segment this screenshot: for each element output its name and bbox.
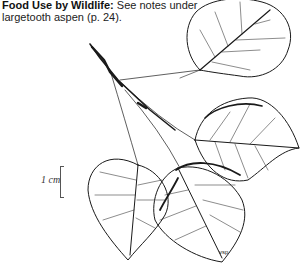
artist-signature: vsp [219,249,228,255]
scale-bracket [60,166,64,198]
aspen-leaves-illustration [0,0,303,272]
scale-label: 1 cm [41,174,60,185]
